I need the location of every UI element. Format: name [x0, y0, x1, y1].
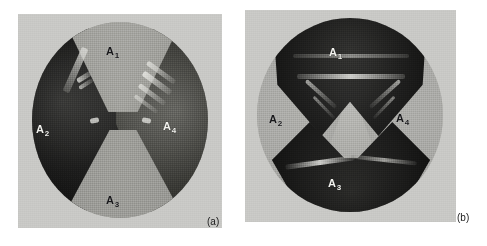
region-label-letter: A	[106, 45, 114, 57]
region-label-letter: A	[329, 46, 337, 58]
region-label-a2-panel-a: A2	[36, 124, 49, 138]
region-label-letter: A	[36, 123, 44, 135]
region-label-a1-panel-b: A1	[329, 47, 342, 61]
region-label-a4-panel-a: A4	[163, 121, 176, 135]
crystal-striation	[293, 54, 409, 58]
region-label-subscript: 1	[338, 52, 343, 61]
region-label-subscript: 2	[278, 119, 283, 128]
region-label-a3-panel-a: A3	[106, 195, 119, 209]
region-label-subscript: 4	[172, 126, 177, 135]
region-label-letter: A	[269, 113, 277, 125]
region-label-a3-panel-b: A3	[328, 178, 341, 192]
region-label-letter: A	[163, 120, 171, 132]
panel-caption-b: (b)	[457, 212, 469, 223]
region-label-letter: A	[106, 194, 114, 206]
specimen-disc-a	[32, 22, 208, 218]
region-label-a2-panel-b: A2	[269, 114, 282, 128]
crystal-striation	[297, 74, 405, 79]
region-label-subscript: 3	[115, 200, 120, 209]
specimen-disc-b	[257, 18, 443, 212]
region-label-subscript: 3	[337, 183, 342, 192]
figure-root: A1 A2 A4 A3 A1 A2 A4 A3	[0, 0, 487, 246]
region-label-subscript: 4	[405, 118, 410, 127]
region-label-letter: A	[328, 177, 336, 189]
figure-panel-b: A1 A2 A4 A3	[245, 10, 456, 222]
region-label-subscript: 1	[115, 51, 120, 60]
region-label-letter: A	[396, 112, 404, 124]
figure-panel-a: A1 A2 A4 A3	[18, 14, 222, 228]
panel-caption-a: (a)	[207, 216, 219, 227]
region-label-a4-panel-b: A4	[396, 113, 409, 127]
region-label-a1-panel-a: A1	[106, 46, 119, 60]
region-label-subscript: 2	[45, 129, 50, 138]
